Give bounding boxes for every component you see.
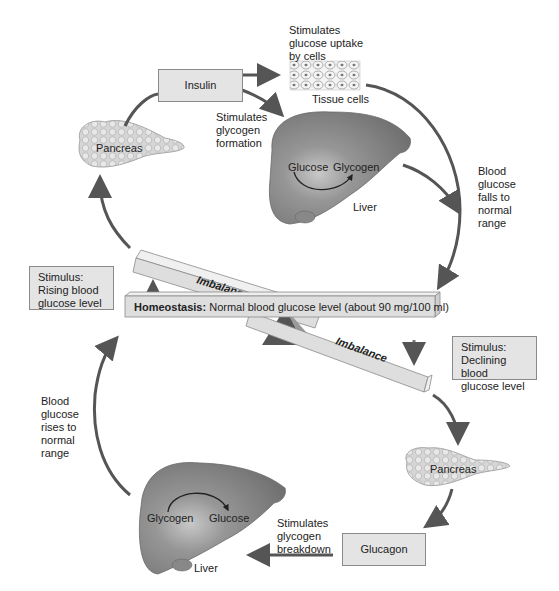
arrow-insulin-to-liver [242, 90, 280, 113]
glycogen-formation-text: Stimulates glycogen formation [216, 111, 267, 150]
svg-text:Pancreas: Pancreas [96, 142, 143, 154]
tissue-effect-text: Stimulates glucose uptake by cells [289, 24, 363, 63]
glucose-falls-text: Blood glucose falls to normal range [478, 165, 516, 230]
svg-text:Liver: Liver [353, 201, 377, 213]
homeostasis-beam: Homeostasis: Normal blood glucose level … [125, 292, 449, 317]
arrow-pancreas-to-insulin [125, 94, 158, 126]
glucose-rises-text: Blood glucose rises to normal range [41, 395, 79, 460]
svg-text:Glucose: Glucose [209, 512, 249, 524]
arrow-pancreas-to-glucagon [428, 489, 452, 525]
arrow-stimulus-to-pancreas [100, 180, 130, 248]
glucagon-label: Glucagon [360, 543, 407, 556]
imbalance-beam-bottom: Imbalance [246, 312, 432, 392]
stimulus-rising-box: Stimulus: Rising blood glucose level [29, 266, 114, 310]
glucose-homeostasis-diagram: Imbalance Imbalance Homeostasis: Normal … [0, 0, 559, 591]
insulin-label: Insulin [185, 79, 217, 92]
insulin-box: Insulin [158, 69, 243, 102]
svg-text:Liver: Liver [194, 562, 218, 574]
tissue-cells-illustration [290, 61, 360, 90]
svg-text:Homeostasis: Normal blood gluc: Homeostasis: Normal blood glucose level … [134, 301, 449, 313]
glycogen-breakdown-text: Stimulates glycogen breakdown [277, 517, 331, 556]
svg-text:Pancreas: Pancreas [430, 463, 477, 475]
arrow-liver-to-result [403, 165, 458, 210]
arrow-stimulus-to-pancreas-bottom [433, 395, 458, 440]
svg-text:Tissue cells: Tissue cells [312, 93, 370, 105]
svg-text:Glycogen: Glycogen [147, 512, 193, 524]
glucagon-box: Glucagon [342, 533, 426, 566]
arrow-liver-to-homeostasis [94, 340, 130, 495]
arrow-tissue-to-homeostasis [366, 85, 460, 285]
svg-text:Glucose: Glucose [288, 161, 328, 173]
svg-text:Glycogen: Glycogen [333, 161, 379, 173]
stimulus-declining-box: Stimulus: Declining blood glucose level [452, 336, 537, 380]
